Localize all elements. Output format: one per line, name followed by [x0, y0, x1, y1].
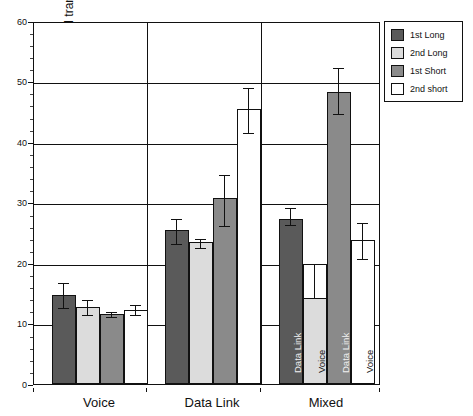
y-tick-mark-0: [28, 385, 33, 386]
errorbar-cap-upper: [195, 239, 206, 240]
errorbar-cap-lower: [106, 317, 117, 318]
errorbar-cap-lower: [82, 315, 93, 316]
legend-swatch-icon: [391, 83, 404, 95]
group-separator-2: [261, 23, 262, 384]
y-tick-label-40: 40: [17, 139, 27, 148]
errorbar-cap-upper: [285, 208, 296, 209]
legend: 1st Long 2nd Long 1st Short 2nd short: [384, 21, 463, 102]
errorbar-cap-lower: [195, 248, 206, 249]
y-tick-label-10: 10: [17, 320, 27, 329]
errorbar-cap-lower: [219, 226, 230, 227]
errorbar-cap-upper: [130, 305, 141, 306]
legend-item-2nd-short: 2nd short: [391, 81, 459, 97]
legend-swatch-icon: [391, 29, 404, 41]
errorbar-cap-lower: [243, 133, 254, 134]
x-tick-mark: [260, 388, 261, 392]
y-tick-label-50: 50: [17, 78, 27, 87]
errorbar-stem: [314, 265, 315, 299]
errorbar-stem: [338, 68, 339, 114]
x-tick-label-voice: Voice: [83, 395, 115, 410]
x-tick-mark: [146, 388, 147, 392]
errorbar-stem: [224, 175, 225, 226]
x-tick-mark: [33, 388, 34, 392]
x-axis: Voice Data Link Mixed: [33, 388, 380, 412]
errorbar-cap-lower: [333, 114, 344, 115]
x-tick-label-data-link: Data Link: [185, 395, 240, 410]
errorbar-cap-upper: [219, 175, 230, 176]
errorbar-stem: [200, 239, 201, 248]
errorbar-stem: [362, 223, 363, 259]
plot-area: Data Link Voice Data Link Voice: [33, 22, 380, 385]
legend-item-1st-long: 1st Long: [391, 27, 459, 43]
errorbar-stem: [290, 208, 291, 225]
errorbar-stem: [176, 219, 177, 244]
legend-item-2nd-long: 2nd Long: [391, 45, 459, 61]
errorbar-stem: [63, 283, 64, 308]
bar-voice-2nd-short: [124, 310, 148, 384]
legend-swatch-icon: [391, 65, 404, 77]
errorbar-cap-lower: [357, 259, 368, 260]
errorbar-cap-lower: [130, 315, 141, 316]
bar-inner-label-mixed-3: Data Link: [340, 333, 351, 373]
errorbar-cap-upper: [58, 283, 69, 284]
x-tick-label-mixed: Mixed: [309, 395, 344, 410]
legend-label: 2nd Long: [410, 47, 448, 59]
bar-voice-1st-short: [100, 314, 124, 384]
errorbar-cap-lower: [58, 308, 69, 309]
errorbar-cap-upper: [171, 219, 182, 220]
y-axis: 60 50 40 30 20 10 0: [0, 0, 33, 416]
bar-inner-label-mixed-1: Data Link: [292, 333, 303, 373]
legend-swatch-icon: [391, 47, 404, 59]
y-tick-label-20: 20: [17, 260, 27, 269]
bar-datalink-1st-long: [165, 230, 189, 384]
errorbar-cap-upper: [106, 312, 117, 313]
legend-item-1st-short: 1st Short: [391, 63, 459, 79]
errorbar-cap-upper: [333, 68, 344, 69]
gridline-50: [34, 83, 379, 84]
errorbar-cap-upper: [243, 88, 254, 89]
errorbar-cap-upper: [82, 300, 93, 301]
errorbar-cap-upper: [357, 223, 368, 224]
bar-inner-label-mixed-2: Voice: [316, 350, 327, 373]
y-tick-label-30: 30: [17, 199, 27, 208]
errorbar-cap-lower: [171, 244, 182, 245]
errorbar-stem: [135, 305, 136, 315]
bar-voice-2nd-long: [76, 307, 100, 384]
errorbar-stem: [87, 300, 88, 315]
y-tick-label-60: 60: [17, 18, 27, 27]
errorbar-cap-lower: [285, 225, 296, 226]
errorbar-stem: [248, 88, 249, 133]
legend-label: 1st Short: [410, 65, 446, 77]
legend-label: 2nd short: [410, 83, 448, 95]
x-tick-mark: [379, 388, 380, 392]
legend-label: 1st Long: [410, 29, 445, 41]
y-tick-label-0: 0: [22, 381, 27, 390]
bar-inner-label-mixed-4: Voice: [364, 350, 375, 373]
bar-datalink-2nd-short: [237, 109, 261, 384]
bar-chart-figure: 60 50 40 30 20 10 0: [0, 0, 473, 416]
bar-datalink-2nd-long: [189, 242, 213, 384]
